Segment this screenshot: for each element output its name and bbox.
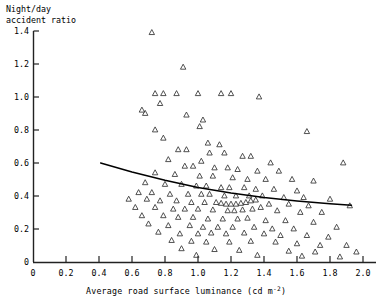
data-point-triangle: [195, 231, 200, 236]
data-point-triangle: [152, 170, 157, 175]
data-point-triangle: [223, 201, 228, 206]
data-point-triangle: [190, 214, 195, 219]
data-point-triangle: [152, 204, 157, 209]
data-point-triangle: [182, 163, 187, 168]
data-point-triangle: [218, 185, 223, 190]
data-point-triangle: [220, 216, 225, 221]
data-point-triangle: [187, 223, 192, 228]
data-point-triangle: [225, 165, 230, 170]
data-point-triangle: [210, 207, 215, 212]
data-point-triangle: [202, 200, 207, 205]
data-point-triangle: [189, 200, 194, 205]
data-point-triangle: [294, 188, 299, 193]
data-point-triangle: [227, 239, 232, 244]
data-point-triangle: [171, 206, 176, 211]
data-point-triangle: [251, 224, 256, 229]
data-point-triangle: [263, 218, 268, 223]
data-point-triangle: [326, 234, 331, 239]
data-point-triangle: [304, 233, 309, 238]
data-point-triangle: [190, 163, 195, 168]
data-point-triangle: [327, 196, 332, 201]
data-point-triangle: [261, 231, 266, 236]
data-point-triangle: [143, 180, 148, 185]
data-point-triangle: [139, 107, 144, 112]
data-point-triangle: [334, 224, 339, 229]
data-point-triangle: [344, 242, 349, 247]
data-point-triangle: [289, 176, 294, 181]
data-point-triangle: [169, 237, 174, 242]
data-point-triangle: [166, 223, 171, 228]
data-point-triangle: [166, 157, 171, 162]
data-point-triangle: [195, 91, 200, 96]
data-point-triangle: [304, 129, 309, 134]
y-tick-label: 0: [24, 257, 29, 267]
data-point-triangle: [225, 208, 230, 213]
data-point-triangle: [337, 254, 342, 259]
data-point-triangle: [248, 153, 253, 158]
data-point-triangle: [273, 239, 278, 244]
data-point-triangle: [275, 208, 280, 213]
data-point-triangle: [180, 64, 185, 69]
data-point-triangle: [276, 168, 281, 173]
data-point-triangle: [136, 190, 141, 195]
data-point-triangle: [298, 209, 303, 214]
x-tick-label: 1.4: [257, 268, 272, 278]
x-tick-label: 0: [31, 268, 36, 278]
data-point-triangle: [230, 175, 235, 180]
x-tick-label: 0.4: [92, 268, 107, 278]
data-point-triangle: [126, 196, 131, 201]
data-point-triangle: [210, 173, 215, 178]
data-point-triangle: [152, 127, 157, 132]
data-point-triangle: [286, 248, 291, 253]
x-axis-title: Average road surface luminance (cd m-2): [86, 285, 286, 296]
y-tick-label: 0.4: [14, 191, 29, 201]
data-point-triangle: [176, 147, 181, 152]
data-point-triangle: [240, 207, 245, 212]
data-point-triangle: [294, 241, 299, 246]
data-point-triangle: [230, 224, 235, 229]
y-tick-label: 1.2: [14, 59, 29, 69]
data-point-triangle: [156, 229, 161, 234]
data-point-triangle: [218, 91, 223, 96]
data-point-triangle: [291, 226, 296, 231]
data-point-triangle: [204, 239, 209, 244]
data-point-triangle: [237, 247, 242, 252]
data-point-triangle: [184, 112, 189, 117]
data-point-triangle: [161, 91, 166, 96]
data-point-triangle: [182, 206, 187, 211]
data-point-triangle: [215, 224, 220, 229]
data-point-triangle: [286, 201, 291, 206]
data-point-triangle: [157, 198, 162, 203]
data-point-triangle: [200, 117, 205, 122]
data-point-triangle: [278, 233, 283, 238]
data-point-triangle: [299, 253, 304, 258]
data-point-triangle: [235, 216, 240, 221]
data-point-triangle: [248, 238, 253, 243]
data-point-triangle: [354, 249, 359, 254]
data-point-triangle: [207, 150, 212, 155]
data-point-triangle: [179, 246, 184, 251]
data-point-triangle: [311, 219, 316, 224]
data-point-triangle: [245, 215, 250, 220]
data-point-triangle: [250, 206, 255, 211]
data-point-triangle: [184, 147, 189, 152]
y-tick-label: 1.4: [14, 26, 29, 36]
data-point-triangle: [199, 158, 204, 163]
data-point-triangle: [189, 238, 194, 243]
data-point-triangle: [200, 224, 205, 229]
data-point-triangle: [242, 230, 247, 235]
data-point-triangle: [255, 252, 260, 257]
x-tick-label: 0.6: [125, 268, 140, 278]
y-axis-ticks: [34, 31, 40, 229]
data-point-triangle: [258, 204, 263, 209]
x-tick-label: 0.2: [59, 268, 74, 278]
data-point-triangle: [212, 247, 217, 252]
data-point-triangle: [209, 230, 214, 235]
data-point-triangle: [218, 200, 223, 205]
data-point-triangle: [232, 208, 237, 213]
data-point-triangle: [271, 186, 276, 191]
data-points-layer: [126, 30, 359, 259]
data-point-triangle: [255, 168, 260, 173]
y-axis-title-line2: accident ratio: [6, 15, 76, 25]
data-point-triangle: [139, 213, 144, 218]
